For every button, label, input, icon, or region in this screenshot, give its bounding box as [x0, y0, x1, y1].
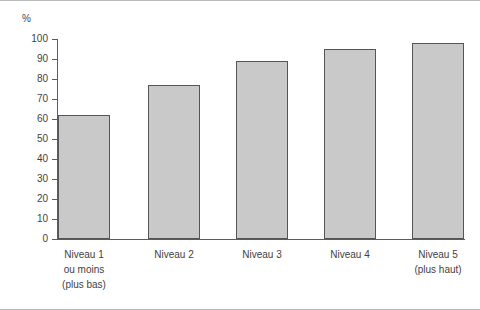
y-tick-label-0: 0 — [22, 234, 48, 244]
y-tick-label-20: 20 — [22, 194, 48, 204]
y-tick-label-70: 70 — [22, 94, 48, 104]
bar-niveau-2 — [148, 85, 200, 239]
x-category-label-5-line-1: Niveau 5 — [378, 247, 480, 262]
x-category-label-5-line-2: (plus haut) — [378, 262, 480, 277]
y-tick-mark-100 — [52, 39, 58, 40]
plot-area: 100 90 80 70 60 50 40 30 — [58, 39, 465, 239]
x-category-label-5: Niveau 5 (plus haut) — [378, 247, 480, 277]
y-tick-mark-80 — [52, 79, 58, 80]
y-tick-label-60: 60 — [22, 114, 48, 124]
chart-figure: % 100 90 80 70 60 50 40 — [0, 0, 480, 310]
x-category-label-1-line-3: (plus bas) — [24, 277, 144, 292]
y-tick-label-80: 80 — [22, 74, 48, 84]
y-tick-label-10: 10 — [22, 214, 48, 224]
y-tick-mark-70 — [52, 99, 58, 100]
x-axis-line — [57, 239, 465, 240]
y-tick-label-50: 50 — [22, 134, 48, 144]
bar-niveau-3 — [236, 61, 288, 239]
bar-niveau-5 — [412, 43, 464, 239]
y-tick-label-30: 30 — [22, 174, 48, 184]
y-tick-label-90: 90 — [22, 54, 48, 64]
y-axis-unit-label: % — [22, 14, 31, 24]
x-category-label-1-line-2: ou moins — [24, 262, 144, 277]
bar-niveau-4 — [324, 49, 376, 239]
y-tick-mark-90 — [52, 59, 58, 60]
bar-niveau-1 — [58, 115, 110, 239]
y-tick-mark-0 — [52, 239, 58, 240]
y-tick-label-40: 40 — [22, 154, 48, 164]
y-tick-label-100: 100 — [22, 34, 48, 44]
